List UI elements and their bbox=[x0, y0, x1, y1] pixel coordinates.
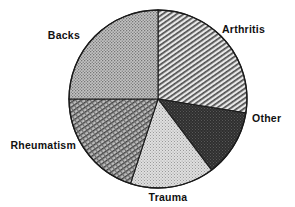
pie-label-backs: Backs bbox=[48, 29, 80, 41]
pie-chart-figure: ArthritisOtherTraumaRheumatismBacks bbox=[0, 0, 295, 207]
pie-label-other: Other bbox=[252, 112, 281, 124]
pie-label-arthritis: Arthritis bbox=[222, 23, 265, 35]
pie-slices-group bbox=[69, 10, 247, 188]
pie-label-rheumatism: Rheumatism bbox=[10, 139, 76, 151]
pie-chart-svg: ArthritisOtherTraumaRheumatismBacks bbox=[0, 0, 295, 207]
pie-slice-backs[interactable] bbox=[69, 10, 158, 99]
pie-label-trauma: Trauma bbox=[149, 191, 188, 203]
